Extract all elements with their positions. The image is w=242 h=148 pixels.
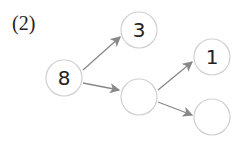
node-top-value: 3 — [133, 18, 146, 42]
node-middle — [121, 79, 157, 115]
arrow-middle-to-right-top — [158, 62, 192, 90]
arrow-root-to-top — [83, 37, 120, 70]
node-right-top-value: 1 — [206, 45, 219, 69]
number-bond-diagram: 8 3 1 — [0, 0, 242, 148]
node-right-bottom — [194, 99, 230, 135]
node-root-value: 8 — [58, 66, 71, 90]
arrow-root-to-middle — [83, 83, 119, 90]
arrow-middle-to-right-bottom — [158, 102, 192, 115]
